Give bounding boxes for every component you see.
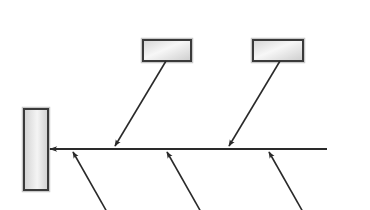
branch-top-1-arrow bbox=[115, 61, 166, 146]
cause-top-2 bbox=[252, 39, 305, 63]
cause-boxes bbox=[142, 39, 305, 63]
branch-arrows-bottom bbox=[73, 152, 303, 210]
branch-bottom-2-arrow bbox=[167, 152, 201, 210]
fishbone-diagram bbox=[0, 0, 370, 210]
fishbone-diagram-canvas bbox=[0, 0, 370, 210]
branch-bottom-1-arrow bbox=[73, 152, 107, 210]
effect-box bbox=[23, 108, 50, 192]
branch-bottom-3-arrow bbox=[269, 152, 303, 210]
branch-arrows-top bbox=[115, 61, 280, 146]
effect-box-rect bbox=[23, 108, 50, 192]
branch-top-2-arrow bbox=[229, 61, 280, 146]
cause-top-1 bbox=[142, 39, 193, 63]
